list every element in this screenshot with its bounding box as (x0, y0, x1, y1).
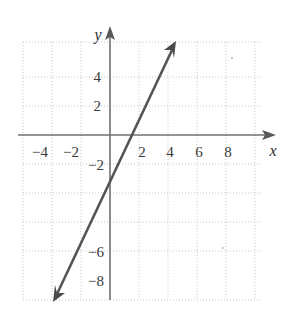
speck (231, 57, 233, 59)
y-axis-label: y (92, 26, 102, 44)
plotted-line (53, 41, 176, 302)
x-tick-labels: −4 −2 2 4 6 8 (32, 144, 232, 160)
y-tick-label: −6 (88, 244, 104, 260)
x-tick-label: 8 (224, 144, 232, 160)
y-tick-labels: 4 2 −2 −6 −8 (88, 69, 104, 289)
graph-figure: −4 −2 2 4 6 8 4 2 −2 −6 −8 y x (0, 0, 286, 316)
grid-lines (23, 42, 262, 300)
speck (222, 247, 224, 249)
x-tick-label: −4 (32, 144, 48, 160)
y-tick-label: 2 (94, 98, 102, 114)
y-tick-label: 4 (94, 69, 102, 85)
x-axis (18, 130, 276, 140)
x-tick-label: 6 (195, 144, 203, 160)
x-axis-label: x (268, 142, 276, 159)
x-tick-label: 2 (138, 144, 146, 160)
y-tick-label: −8 (88, 273, 104, 289)
y-tick-label: −2 (88, 157, 104, 173)
x-tick-label: 4 (166, 144, 174, 160)
line-segment (57, 48, 173, 294)
y-axis (105, 26, 115, 300)
coordinate-plane-graph: −4 −2 2 4 6 8 4 2 −2 −6 −8 y x (0, 0, 286, 316)
x-tick-label: −2 (63, 144, 79, 160)
